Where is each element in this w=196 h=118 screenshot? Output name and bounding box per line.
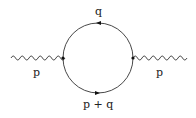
fermion-loop (63, 23, 133, 93)
top-arrow-icon (96, 21, 101, 25)
right-vertex-dot (131, 56, 134, 59)
label-loop-bottom: p + q (83, 98, 113, 111)
bottom-arrow-icon (95, 91, 100, 95)
feynman-diagram: q p + q p p (0, 0, 196, 118)
left-vertex-dot (61, 56, 64, 59)
label-external-left: p (33, 66, 40, 79)
label-loop-top: q (95, 5, 102, 18)
left-wavy-line (11, 56, 65, 60)
right-wavy-line (133, 56, 187, 60)
label-external-right: p (156, 66, 163, 79)
